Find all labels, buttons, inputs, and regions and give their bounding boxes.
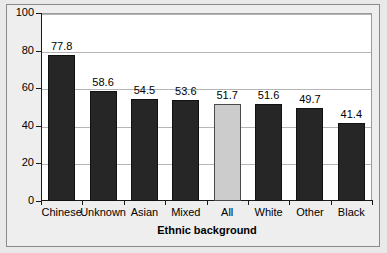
bar-value-label: 49.7 [285,94,335,105]
y-axis-tick-label: 40 [0,120,34,131]
x-axis-tick [124,201,125,205]
y-axis-tick-label: 60 [0,82,34,93]
y-axis-tick-label-text: 100 [2,7,34,18]
bar-white [255,104,282,201]
y-axis-tick-label-text: 20 [2,157,34,168]
x-axis-tick [248,201,249,205]
y-axis-tick-label-text: 60 [2,82,34,93]
gridline [42,52,371,53]
x-axis-tick [372,201,373,205]
x-axis-title: Ethnic background [41,224,373,236]
x-axis-tick [207,201,208,205]
bar-black [338,123,365,201]
bar-all [214,104,241,201]
bar-unknown [90,91,117,201]
y-axis-tick [36,163,41,164]
bar-mixed [172,100,199,201]
y-axis-tick-label: 100 [0,7,34,18]
bar-value-label: 41.4 [326,109,376,120]
y-axis-tick-label-text: 40 [2,120,34,131]
x-axis-tick [82,201,83,205]
y-axis-tick [36,13,41,14]
bar-other [296,108,323,201]
bar-chart: 020406080100 77.858.654.553.651.751.649.… [0,0,387,253]
x-axis-tick [331,201,332,205]
y-axis-tick-label: 0 [0,195,34,206]
category-label-black: Black [321,206,381,218]
y-axis-tick [36,126,41,127]
x-axis-tick [289,201,290,205]
bar-value-label: 77.8 [37,41,87,52]
bar-chinese [48,55,75,201]
y-axis-tick [36,88,41,89]
gridline [42,14,371,15]
y-axis-tick-label: 80 [0,45,34,56]
x-axis-tick [41,201,42,205]
y-axis-tick-label-text: 80 [2,45,34,56]
y-axis-tick-label: 20 [0,157,34,168]
x-axis-tick [165,201,166,205]
y-axis-tick-label-text: 0 [2,195,34,206]
bar-asian [131,99,158,201]
